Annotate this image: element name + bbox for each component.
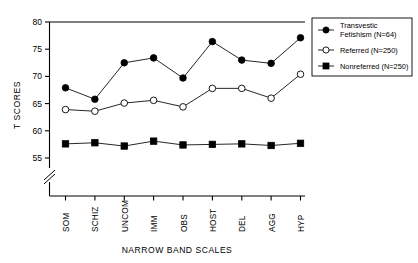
data-point-square <box>150 138 156 144</box>
data-point-square <box>268 142 274 148</box>
data-point-open-circle <box>209 85 216 92</box>
series-1 <box>62 34 304 102</box>
data-point-open-circle <box>180 104 187 111</box>
data-point-square <box>62 141 68 147</box>
y-tick-label-80: 80 <box>33 17 43 27</box>
filled-circle-icon <box>323 27 329 33</box>
series-layer <box>62 34 304 149</box>
y-tick-label-75: 75 <box>33 44 43 54</box>
data-point-open-circle <box>121 100 128 107</box>
legend-label-line1: Nonreferred (N=250) <box>340 62 408 71</box>
data-point-open-circle <box>92 108 99 115</box>
data-point-filled-circle <box>180 75 187 82</box>
legend-label-line1: Transvestic <box>340 21 378 30</box>
data-point-filled-circle <box>121 60 128 67</box>
data-point-square <box>92 140 98 146</box>
data-point-open-circle <box>150 97 157 104</box>
data-point-filled-circle <box>62 85 69 92</box>
data-point-open-circle <box>62 106 69 113</box>
x-tick-label-host: HOST <box>209 208 218 232</box>
y-tick-label-60: 60 <box>33 126 43 136</box>
data-point-filled-circle <box>150 55 157 62</box>
x-tick-label-som: SOM <box>62 213 71 232</box>
x-tick-marks <box>66 196 301 201</box>
x-tick-label-imm: IMM <box>150 215 159 232</box>
filled-square-icon <box>323 63 329 69</box>
y-tick-label-55: 55 <box>33 153 43 163</box>
series-line <box>66 38 301 99</box>
open-circle-icon <box>323 47 329 53</box>
data-point-square <box>209 141 215 147</box>
chart-container: T SCORES 80 75 70 65 60 55 <box>0 0 418 263</box>
x-tick-label-schiz: SCHIZ <box>91 206 100 232</box>
data-point-open-circle <box>297 71 304 78</box>
line-chart: T SCORES 80 75 70 65 60 55 <box>0 0 418 263</box>
x-tick-label-uncom: UNCOM <box>121 200 130 232</box>
data-point-filled-circle <box>297 34 304 41</box>
data-point-square <box>180 142 186 148</box>
y-tick-label-65: 65 <box>33 99 43 109</box>
x-tick-label-hyp: HYP <box>297 214 306 232</box>
y-axis-title: T SCORES <box>12 81 22 129</box>
x-tick-label-del: DEL <box>238 215 247 232</box>
data-point-square <box>121 143 127 149</box>
data-point-square <box>239 141 245 147</box>
y-tick-label-70: 70 <box>33 71 43 81</box>
x-tick-label-agg: AGG <box>268 213 277 232</box>
series-3 <box>62 138 303 149</box>
x-tick-label-obs: OBS <box>180 214 189 232</box>
data-point-filled-circle <box>92 96 99 103</box>
data-point-filled-circle <box>268 60 275 67</box>
data-point-filled-circle <box>209 38 216 45</box>
data-point-open-circle <box>268 95 275 102</box>
chart-legend: Transvestic Fetishism (N=64) Referred (N… <box>312 18 412 76</box>
data-point-filled-circle <box>238 57 245 64</box>
data-point-open-circle <box>238 85 245 92</box>
legend-label-line2: Fetishism (N=64) <box>340 30 396 39</box>
legend-label-line1: Referred (N=250) <box>340 46 398 55</box>
x-axis-title: NARROW BAND SCALES <box>122 245 233 255</box>
data-point-square <box>297 140 303 146</box>
